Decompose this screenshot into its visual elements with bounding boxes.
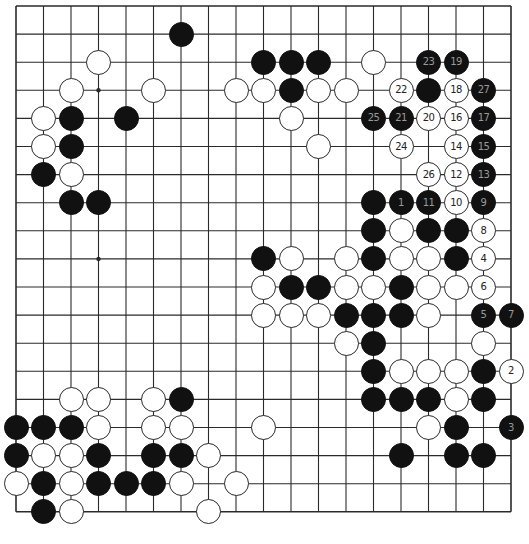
white-stone: [169, 471, 194, 496]
move-number: 6: [481, 282, 487, 292]
move-number: 5: [481, 310, 487, 320]
black-stone: [471, 359, 496, 384]
white-stone: [471, 331, 496, 356]
black-stone-move-13: 13: [471, 162, 496, 187]
black-stone: [361, 331, 386, 356]
white-stone-move-14: 14: [444, 134, 469, 159]
black-stone: [141, 443, 166, 468]
white-stone: [334, 78, 359, 103]
white-stone: [389, 218, 414, 243]
move-number: 17: [478, 113, 490, 123]
white-stone: [86, 415, 111, 440]
move-number: 16: [450, 113, 462, 123]
black-stone: [59, 190, 84, 215]
white-stone: [59, 471, 84, 496]
star-point: [96, 257, 100, 261]
black-stone: [416, 387, 441, 412]
black-stone: [444, 246, 469, 271]
white-stone: [4, 471, 29, 496]
black-stone: [114, 106, 139, 131]
move-number: 9: [481, 198, 487, 208]
move-number: 27: [478, 85, 490, 95]
move-number: 20: [423, 113, 435, 123]
black-stone: [251, 50, 276, 75]
white-stone-move-6: 6: [471, 275, 496, 300]
black-stone: [279, 50, 304, 75]
white-stone: [31, 443, 56, 468]
white-stone-move-12: 12: [444, 162, 469, 187]
black-stone-move-21: 21: [389, 106, 414, 131]
white-stone: [444, 275, 469, 300]
black-stone: [86, 443, 111, 468]
black-stone: [279, 78, 304, 103]
white-stone-move-10: 10: [444, 190, 469, 215]
black-stone: [389, 443, 414, 468]
black-stone: [444, 218, 469, 243]
move-number: 22: [395, 85, 407, 95]
white-stone: [251, 275, 276, 300]
white-stone-move-24: 24: [389, 134, 414, 159]
white-stone: [361, 50, 386, 75]
black-stone: [31, 162, 56, 187]
move-number: 11: [423, 198, 435, 208]
white-stone: [59, 162, 84, 187]
white-stone: [59, 78, 84, 103]
black-stone: [416, 78, 441, 103]
black-stone-move-3: 3: [499, 415, 524, 440]
white-stone-move-20: 20: [416, 106, 441, 131]
black-stone-move-25: 25: [361, 106, 386, 131]
white-stone: [224, 471, 249, 496]
white-stone-move-2: 2: [499, 359, 524, 384]
black-stone: [389, 303, 414, 328]
white-stone: [251, 415, 276, 440]
black-stone-move-5: 5: [471, 303, 496, 328]
move-number: 2: [508, 366, 514, 376]
white-stone: [251, 78, 276, 103]
black-stone: [114, 471, 139, 496]
white-stone-move-18: 18: [444, 78, 469, 103]
white-stone: [279, 106, 304, 131]
move-number: 10: [450, 198, 462, 208]
move-number: 3: [508, 423, 514, 433]
move-number: 4: [481, 254, 487, 264]
black-stone: [169, 387, 194, 412]
white-stone: [224, 78, 249, 103]
move-number: 21: [395, 113, 407, 123]
white-stone: [31, 106, 56, 131]
black-stone: [389, 387, 414, 412]
star-point: [96, 88, 100, 92]
black-stone-move-23: 23: [416, 50, 441, 75]
black-stone-move-19: 19: [444, 50, 469, 75]
white-stone-move-26: 26: [416, 162, 441, 187]
white-stone-move-16: 16: [444, 106, 469, 131]
black-stone: [361, 359, 386, 384]
move-number: 25: [368, 113, 380, 123]
black-stone: [444, 443, 469, 468]
white-stone: [334, 275, 359, 300]
white-stone: [416, 415, 441, 440]
white-stone: [279, 303, 304, 328]
black-stone: [4, 443, 29, 468]
white-stone: [416, 303, 441, 328]
white-stone: [141, 415, 166, 440]
black-stone: [59, 106, 84, 131]
white-stone: [306, 303, 331, 328]
black-stone: [59, 415, 84, 440]
black-stone-move-1: 1: [389, 190, 414, 215]
move-number: 15: [478, 142, 490, 152]
black-stone: [31, 415, 56, 440]
white-stone: [416, 275, 441, 300]
move-number: 13: [478, 170, 490, 180]
white-stone: [196, 443, 221, 468]
black-stone: [471, 387, 496, 412]
move-number: 23: [423, 57, 435, 67]
move-number: 8: [481, 226, 487, 236]
white-stone: [444, 359, 469, 384]
black-stone: [361, 303, 386, 328]
white-stone: [334, 331, 359, 356]
move-number: 14: [450, 142, 462, 152]
move-number: 26: [423, 170, 435, 180]
white-stone: [59, 387, 84, 412]
black-stone: [361, 387, 386, 412]
move-number: 1: [398, 198, 404, 208]
